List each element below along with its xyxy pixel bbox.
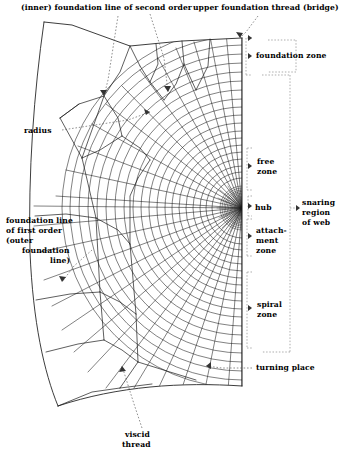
label-upper-foundation-thread: upper foundation thread (bridge)	[193, 3, 339, 13]
label-attachment-zone-3: zone	[256, 246, 276, 256]
label-snaring-region-3: of web	[302, 218, 330, 228]
label-spiral-zone-2: zone	[257, 310, 277, 320]
web-threads	[30, 22, 242, 406]
label-free-zone-1: free	[257, 157, 274, 167]
leader-inner-foundation	[150, 14, 168, 92]
leader-inner-foundation-2	[104, 16, 118, 96]
label-outer-foundation-line-1: foundation line	[6, 216, 73, 226]
label-free-zone-2: zone	[257, 167, 277, 177]
label-attachment-zone-1: attach-	[256, 226, 287, 236]
leader-bridge	[240, 16, 258, 38]
label-outer-foundation-line-2: of first order	[6, 226, 62, 236]
bracket-spiral-zone	[247, 272, 252, 348]
upper-foundation-thread	[44, 22, 242, 46]
label-turning-place: turning place	[256, 363, 315, 373]
leader-viscid-thread	[122, 366, 142, 428]
bracket-free-zone	[247, 148, 252, 190]
leader-turning-place	[206, 366, 252, 368]
label-spiral-zone-1: spiral	[257, 300, 282, 310]
label-inner-foundation-line: (inner) foundation line of second order	[21, 3, 192, 13]
label-outer-foundation-line-3: (outer	[6, 236, 33, 246]
label-foundation-zone: foundation zone	[256, 51, 326, 61]
label-viscid-thread-2: thread	[122, 440, 151, 450]
label-radius: radius	[24, 126, 52, 136]
label-snaring-region-1: snaring	[302, 198, 335, 208]
label-snaring-region-2: region	[302, 208, 330, 218]
label-outer-foundation-line-5: line)	[50, 256, 70, 266]
label-attachment-zone-2: ment	[256, 236, 278, 246]
label-viscid-thread-1: viscid	[125, 430, 150, 440]
label-hub: hub	[255, 203, 272, 213]
label-outer-foundation-line-4: foundation	[22, 246, 70, 256]
